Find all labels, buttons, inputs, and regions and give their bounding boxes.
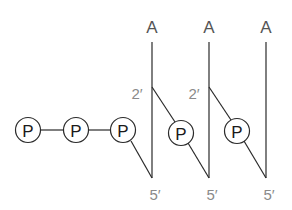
prime-2-label-1: 2′ (131, 85, 142, 102)
phosphate-label: P (117, 122, 128, 141)
polyadenylate-diagram: P P P P P A A A 2′ 2′ 5′ 5′ 5′ (0, 0, 292, 210)
diagonal-2prime-2-to-p5 (209, 87, 231, 120)
phosphate-5: P (225, 119, 250, 144)
diagonal-p3-to-5prime-1 (131, 141, 152, 178)
phosphate-label: P (70, 122, 81, 141)
prime-2-label-2: 2′ (188, 85, 199, 102)
base-label-2: A (203, 18, 215, 37)
phosphate-label: P (231, 123, 242, 142)
phosphate-label: P (22, 122, 33, 141)
phosphate-label: P (175, 125, 186, 144)
prime-5-label-3: 5′ (263, 186, 274, 203)
phosphate-1: P (16, 118, 41, 143)
prime-5-label-2: 5′ (206, 186, 217, 203)
phosphate-4: P (169, 121, 194, 146)
base-label-1: A (146, 18, 158, 37)
phosphate-2: P (64, 118, 89, 143)
diagonal-p5-to-5prime-3 (244, 141, 266, 178)
prime-5-label-1: 5′ (149, 186, 160, 203)
base-label-3: A (260, 18, 272, 37)
phosphate-3: P (111, 118, 136, 143)
diagonal-p4-to-5prime-2 (188, 143, 209, 178)
diagonal-2prime-1-to-p4 (152, 87, 175, 122)
